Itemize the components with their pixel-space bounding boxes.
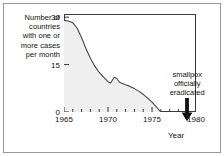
down-arrow-icon	[181, 98, 193, 122]
y-axis-title-line-5: per month	[6, 50, 60, 59]
annotation-line-2: officially	[156, 79, 218, 88]
y-tick-label-15: 15	[51, 60, 60, 69]
x-tick-label-1975: 1975	[143, 115, 161, 124]
y-axis-title-line-4: more cases	[6, 41, 60, 50]
y-axis-title-line-3: with one or	[6, 31, 60, 40]
x-tick-label-1965: 1965	[55, 115, 73, 124]
plot-area: 0 15 30 1965 1970 1975 1980 smallpox off…	[64, 14, 196, 112]
eradication-annotation: smallpox officially eradicated	[156, 70, 218, 98]
x-tick-label-1970: 1970	[99, 115, 117, 124]
y-axis-title-line-2: countries	[6, 22, 60, 31]
y-tick-label-30: 30	[51, 13, 60, 22]
annotation-line-3: eradicated	[156, 88, 218, 97]
annotation-line-1: smallpox	[156, 70, 218, 79]
x-axis-title: Year	[168, 131, 184, 140]
chart-figure: Number of countries with one or more cas…	[0, 0, 224, 156]
